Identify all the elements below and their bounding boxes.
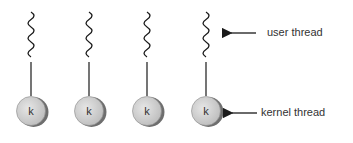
thread-pair: k xyxy=(133,12,165,127)
user-thread-label: user thread xyxy=(267,26,323,38)
user-thread-icon xyxy=(28,12,34,57)
threading-diagram: kkkk xyxy=(0,0,353,143)
kernel-thread-letter: k xyxy=(28,105,34,117)
thread-pair: k xyxy=(192,12,224,127)
thread-pair: k xyxy=(75,12,107,127)
user-thread-icon xyxy=(144,12,150,57)
user-thread-icon xyxy=(203,12,209,57)
kernel-thread-letter: k xyxy=(86,105,92,117)
user-thread-icon xyxy=(86,12,92,57)
kernel-thread-label: kernel thread xyxy=(261,106,325,118)
kernel-thread-letter: k xyxy=(203,105,209,117)
kernel-thread-letter: k xyxy=(144,105,150,117)
thread-pair: k xyxy=(17,12,49,127)
